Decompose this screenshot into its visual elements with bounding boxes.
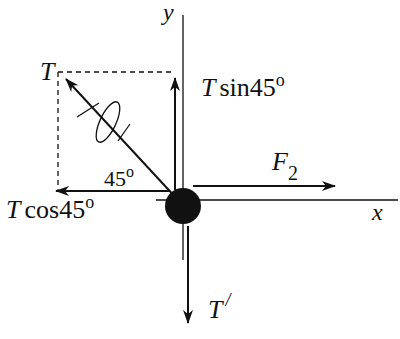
free-body-diagram: y x T Tsin45o Tcos45o 45o F2 T/ — [0, 0, 400, 339]
tension-label: T — [40, 57, 56, 86]
y-axis-label: y — [161, 0, 174, 25]
f2-label: F2 — [271, 147, 298, 184]
mass-ball — [165, 188, 201, 224]
tsin-label: Tsin45o — [201, 70, 285, 102]
x-axis-label: x — [371, 199, 383, 225]
tprime-label: T/ — [208, 290, 232, 324]
angle-label: 45o — [104, 163, 134, 191]
tcos-label: Tcos45o — [6, 192, 94, 224]
